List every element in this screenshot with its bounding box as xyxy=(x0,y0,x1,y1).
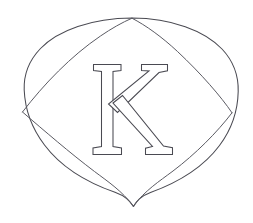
logo-canvas: Monogram K emblem K Hand-drawn line art … xyxy=(0,0,253,223)
diamond-arc-bottom-left xyxy=(23,112,134,206)
letter-k-leg xyxy=(113,96,173,155)
monogram-emblem-svg xyxy=(0,0,253,223)
letter-k-group xyxy=(93,65,173,155)
